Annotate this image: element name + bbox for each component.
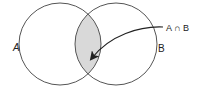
set-a-label: A bbox=[12, 42, 20, 53]
venn-diagram: A B A ∩ B bbox=[0, 0, 204, 87]
intersection-arrow bbox=[92, 27, 163, 58]
intersection-label: A ∩ B bbox=[166, 23, 189, 33]
set-b-label: B bbox=[158, 43, 165, 54]
